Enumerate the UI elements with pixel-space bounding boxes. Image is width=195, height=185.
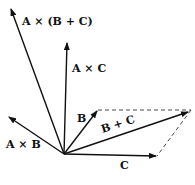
label-a-cross-c: A × C (72, 63, 106, 74)
label-a-cross-b-plus-c: A × (B + C) (22, 16, 93, 27)
vector-a-cross-b-plus-c (11, 9, 64, 154)
vector-c (64, 154, 156, 156)
label-a-cross-b: A × B (6, 139, 41, 150)
label-c: C (120, 160, 129, 171)
vector-a-cross-c (64, 43, 67, 154)
label-b: B (77, 113, 86, 124)
